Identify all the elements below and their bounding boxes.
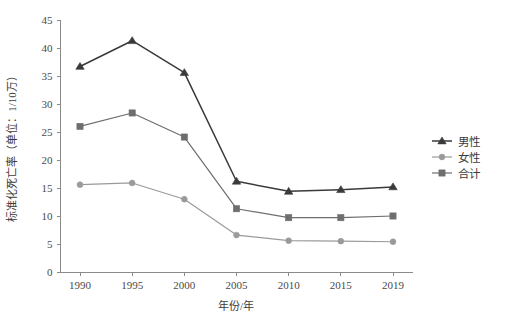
x-tick-label: 2000	[173, 279, 196, 291]
y-tick-label: 45	[42, 14, 54, 26]
y-tick-label: 0	[47, 266, 53, 278]
y-tick-label: 10	[42, 210, 54, 222]
marker-square	[338, 215, 344, 221]
series-line	[80, 113, 393, 218]
legend-label: 女性	[458, 151, 480, 164]
data-series-layer	[76, 37, 397, 245]
marker-triangle	[232, 177, 240, 184]
y-axis-title: 标准化死亡率（单位：1/10万）	[5, 70, 18, 222]
series-3	[77, 110, 396, 221]
marker-square	[77, 123, 83, 129]
y-tick-label: 40	[42, 42, 54, 54]
y-tick-label: 5	[47, 238, 53, 250]
marker-circle	[439, 154, 445, 160]
y-tick-label: 35	[42, 70, 54, 82]
series-line	[80, 41, 393, 192]
marker-circle	[338, 238, 344, 244]
x-tick-label: 2015	[330, 279, 353, 291]
legend-label: 合计	[458, 167, 481, 180]
marker-square	[390, 213, 396, 219]
y-tick-label: 20	[42, 154, 54, 166]
marker-circle	[181, 196, 187, 202]
x-tick-label: 2019	[382, 279, 405, 291]
x-tick-label: 2010	[278, 279, 301, 291]
marker-square	[439, 170, 445, 176]
marker-circle	[286, 238, 292, 244]
x-axis-title: 年份/年	[218, 299, 254, 312]
legend-item-男性[interactable]: 男性	[432, 135, 480, 148]
marker-square	[181, 134, 187, 140]
marker-square	[233, 206, 239, 212]
marker-circle	[129, 180, 135, 186]
x-tick-label: 1995	[121, 279, 144, 291]
marker-square	[129, 110, 135, 116]
marker-triangle	[128, 37, 136, 44]
x-tick-label: 1990	[69, 279, 92, 291]
line-chart: 051015202530354045 199019952000200520102…	[0, 0, 515, 322]
y-tick-label: 15	[42, 182, 54, 194]
y-tick-label: 30	[42, 98, 54, 110]
marker-square	[286, 215, 292, 221]
legend-item-合计[interactable]: 合计	[432, 167, 481, 180]
marker-circle	[77, 182, 83, 188]
chart-legend: 男性女性合计	[432, 135, 481, 180]
y-axis-ticks: 051015202530354045	[42, 14, 61, 278]
marker-circle	[390, 239, 396, 245]
marker-triangle	[76, 62, 84, 69]
x-axis-ticks: 1990199520002005201020152019	[69, 272, 405, 291]
marker-triangle	[180, 69, 188, 76]
marker-circle	[234, 232, 240, 238]
legend-label: 男性	[458, 135, 480, 148]
chart-container: 051015202530354045 199019952000200520102…	[0, 0, 515, 322]
y-tick-label: 25	[42, 126, 54, 138]
legend-item-女性[interactable]: 女性	[432, 151, 480, 164]
x-tick-label: 2005	[226, 279, 249, 291]
